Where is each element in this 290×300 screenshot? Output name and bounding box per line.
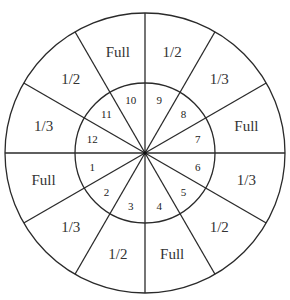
- inner-sector-label: 11: [101, 108, 112, 120]
- outer-sector-label: Full: [106, 44, 130, 60]
- inner-sector-label: 7: [195, 133, 201, 145]
- inner-sector-label: 10: [125, 94, 137, 106]
- outer-sector-label: 1/2: [61, 71, 80, 87]
- outer-sector-label: 1/2: [108, 246, 127, 262]
- inner-sector-label: 9: [156, 94, 162, 106]
- sector-wheel-diagram: 123456789101112 Full1/31/2Full1/21/3Full…: [0, 0, 290, 300]
- inner-sector-label: 5: [181, 186, 187, 198]
- outer-sector-label: 1/3: [61, 219, 80, 235]
- outer-sector-label: 1/2: [163, 44, 182, 60]
- outer-sector-label: 1/2: [210, 219, 229, 235]
- inner-sector-label: 1: [90, 161, 96, 173]
- outer-sector-label: 1/3: [34, 118, 53, 134]
- outer-sector-label: Full: [31, 172, 55, 188]
- inner-sector-label: 4: [156, 200, 162, 212]
- inner-sector-label: 3: [128, 200, 134, 212]
- inner-sector-label: 2: [104, 186, 110, 198]
- outer-sector-label: 1/3: [210, 71, 229, 87]
- outer-sector-label: 1/3: [237, 172, 256, 188]
- inner-sector-label: 6: [195, 161, 201, 173]
- outer-sector-label: Full: [160, 246, 184, 262]
- inner-sector-label: 8: [181, 108, 187, 120]
- center-point: [143, 151, 147, 155]
- outer-sector-label: Full: [234, 118, 258, 134]
- inner-sector-label: 12: [87, 133, 98, 145]
